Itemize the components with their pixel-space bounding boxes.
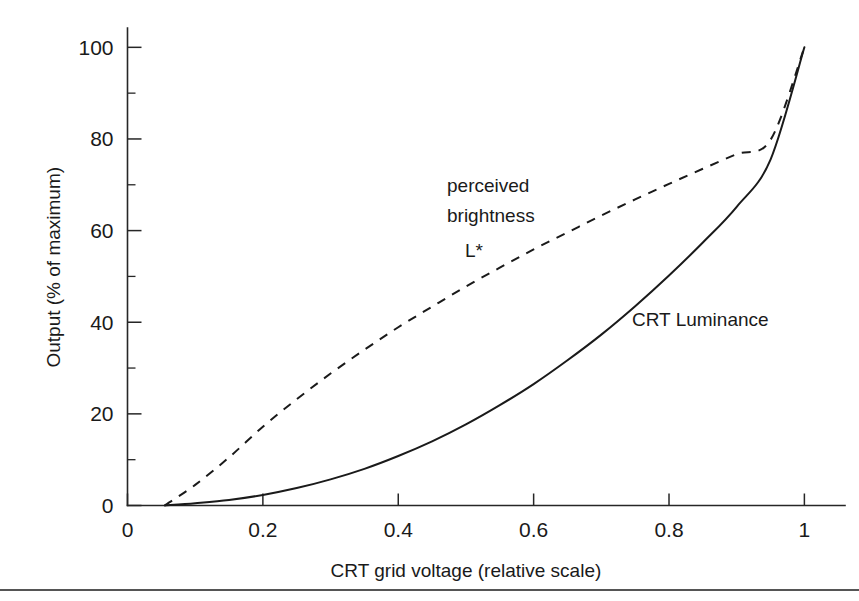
x-tick-label: 1 <box>799 518 811 541</box>
y-tick-label: 20 <box>90 402 113 425</box>
y-axis-tick-labels: 020406080100 <box>78 36 113 517</box>
x-tick-label: 0.8 <box>654 518 683 541</box>
y-tick-label: 60 <box>90 219 113 242</box>
annotation-crt-luminance: CRT Luminance <box>632 309 769 330</box>
x-tick-label: 0 <box>122 518 134 541</box>
x-tick-label: 0.6 <box>519 518 548 541</box>
annotation-perceived-brightness-line1: perceived <box>447 175 529 196</box>
annotation-perceived-brightness: perceived brightness L* <box>447 175 535 261</box>
annotation-crt-luminance-line1: CRT Luminance <box>632 309 769 330</box>
y-tick-label: 40 <box>90 311 113 334</box>
annotation-perceived-brightness-line2: brightness <box>447 205 535 226</box>
annotation-perceived-brightness-line3: L* <box>465 240 484 261</box>
series-line-perceived-brightness <box>165 47 805 505</box>
y-tick-label: 0 <box>102 494 114 517</box>
bottom-divider-rule <box>0 589 859 591</box>
y-axis-title: Output (% of maximum) <box>43 167 64 368</box>
figure-container: 020406080100 00.20.40.60.81 Output (% of… <box>0 0 859 601</box>
y-tick-label: 100 <box>78 36 113 59</box>
y-tick-label: 80 <box>90 127 113 150</box>
chart-plot: 020406080100 00.20.40.60.81 Output (% of… <box>0 0 859 601</box>
y-axis-ticks <box>128 47 142 505</box>
x-axis-title: CRT grid voltage (relative scale) <box>331 560 602 581</box>
x-axis-tick-labels: 00.20.40.60.81 <box>122 518 811 541</box>
x-tick-label: 0.2 <box>248 518 277 541</box>
x-tick-label: 0.4 <box>384 518 414 541</box>
